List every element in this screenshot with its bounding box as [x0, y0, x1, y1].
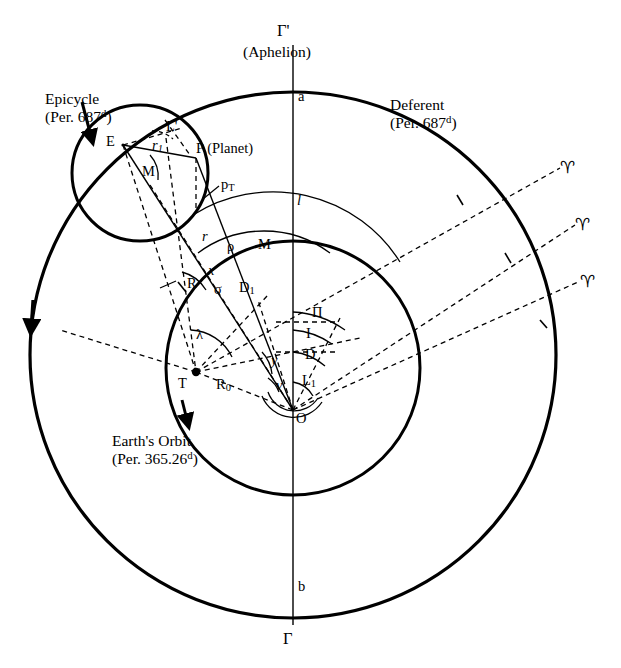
label-D: D: [305, 346, 315, 362]
perihelion-symbol: Γ: [283, 630, 293, 648]
label-I: I: [306, 325, 311, 341]
epicycle-name: Epicycle: [45, 90, 112, 107]
label-v: v: [276, 377, 282, 393]
epicycle-period: (Per. 687d): [45, 107, 112, 125]
label-M-epicycle: M: [142, 163, 155, 179]
aries-symbol-2: ♈: [575, 215, 590, 234]
label-r: r: [202, 228, 208, 244]
label-M: M: [258, 236, 271, 252]
aries-symbol-3: ♈: [580, 272, 595, 291]
point-a-label: a: [298, 88, 304, 104]
aphelion-note: (Aphelion): [243, 43, 311, 60]
label-x: x: [208, 262, 214, 278]
label-sigma: σ: [214, 281, 222, 297]
point-E-label: E: [106, 133, 115, 149]
aphelion-symbol: Γ': [277, 22, 290, 40]
deferent-name: Deferent: [390, 96, 457, 113]
label-lambda: λ: [196, 326, 203, 342]
label-R: R: [187, 275, 197, 291]
label-rho: ρ: [227, 238, 234, 254]
label-Pi: Π: [312, 304, 322, 320]
deferent-label: Deferent (Per. 687d): [390, 96, 457, 132]
label-pT: pT: [221, 176, 235, 194]
earths-orbit-label: Earth's Orbit (Per. 365.26d): [112, 432, 198, 468]
earths-orbit-name: Earth's Orbit: [112, 432, 198, 449]
diagram-root: Γ' (Aphelion) a Γ b Epicycle (Per. 687d)…: [0, 0, 621, 668]
construction-lines-dashed: [60, 120, 578, 410]
earths-orbit-period: (Per. 365.26d): [112, 449, 198, 467]
label-L-prime: L': [166, 118, 177, 134]
deferent-period: (Per. 687d): [390, 113, 457, 131]
aries-symbol-1: ♈: [560, 158, 575, 177]
point-E-marker: [121, 143, 124, 146]
point-O-label: O: [296, 410, 306, 426]
deferent-direction-arrow: [31, 300, 33, 330]
point-b-label: b: [298, 578, 305, 594]
label-r1: r1: [152, 137, 163, 155]
epicycle-label: Epicycle (Per. 687d): [45, 90, 112, 126]
point-T-marker: [192, 368, 200, 376]
label-l: l: [297, 192, 301, 208]
point-P-label: P (Planet): [196, 140, 253, 156]
label-D1: D1: [239, 279, 255, 297]
earths-orbit-direction-arrow: [182, 400, 188, 424]
label-y: y: [271, 352, 277, 368]
marked-points: [121, 143, 200, 376]
label-R0: R0: [216, 376, 231, 394]
point-T-label: T: [178, 375, 187, 391]
label-L1: L1: [302, 372, 316, 390]
